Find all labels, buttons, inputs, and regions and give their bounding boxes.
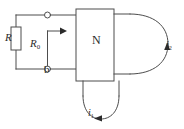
label-R0-symbol: R (30, 37, 37, 49)
label-R0-subscript: 0 (37, 43, 40, 50)
label-terminal-b: b (44, 64, 50, 75)
current-i1-arrow-head (94, 115, 102, 121)
label-current-i1: i1 (88, 108, 94, 118)
right-loop-arc (130, 14, 168, 74)
label-resistor-R: R (5, 32, 12, 43)
label-resistor-R0: R0 (30, 38, 40, 49)
terminal-top-circle (45, 12, 51, 18)
label-network-N: N (92, 34, 101, 46)
circuit-figure: R R0 b N i2 i1 (0, 0, 184, 129)
resistor-R-body (11, 27, 21, 50)
label-current-i2: i2 (166, 40, 172, 50)
label-i1-subscript: 1 (91, 112, 94, 119)
r0-arrow-head (60, 28, 67, 35)
label-i2-subscript: 2 (169, 44, 172, 51)
